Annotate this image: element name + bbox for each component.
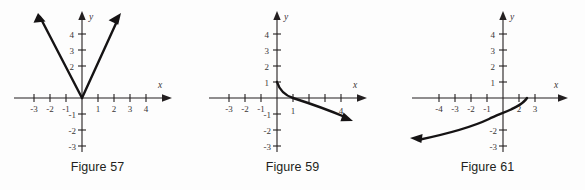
figure-57-ytick-labels: 4 3 2 -1 -2 -3 bbox=[69, 30, 77, 152]
xtick-label: 1 bbox=[291, 106, 296, 116]
figure-panel: -3 -2 -1 1 2 3 4 4 3 2 -1 -2 -3 x y bbox=[0, 0, 585, 190]
figure-57-y-axis-label: y bbox=[88, 12, 94, 22]
figure-57-plot: -3 -2 -1 1 2 3 4 4 3 2 -1 -2 -3 x y bbox=[0, 0, 195, 160]
figure-57-axes bbox=[14, 11, 172, 152]
xtick-label: 4 bbox=[144, 104, 149, 114]
ytick-label: 1 bbox=[265, 78, 270, 88]
xtick-label: -3 bbox=[451, 104, 459, 114]
ytick-label: 2 bbox=[491, 62, 496, 72]
ytick-label: 4 bbox=[265, 30, 270, 40]
xtick-label: 1 bbox=[96, 104, 101, 114]
ytick-label: -3 bbox=[264, 142, 272, 152]
figure-59-plot: -3 -2 -1 1 4 4 3 2 1 -1 -2 -3 x y bbox=[195, 0, 390, 160]
xtick-label: 3 bbox=[128, 104, 133, 114]
figure-57-curve bbox=[34, 13, 122, 98]
xtick-label: -3 bbox=[30, 104, 38, 114]
ytick-label: 1 bbox=[491, 78, 496, 88]
figure-57-x-axis-label: x bbox=[157, 80, 163, 90]
figure-59-axes bbox=[209, 11, 367, 152]
ytick-label: 2 bbox=[265, 62, 270, 72]
xtick-label: -2 bbox=[241, 104, 249, 114]
xtick-label: -2 bbox=[46, 104, 54, 114]
ytick-label: 4 bbox=[491, 30, 496, 40]
figure-61-x-axis-label: x bbox=[553, 80, 559, 90]
ytick-label: 4 bbox=[70, 30, 75, 40]
xtick-label: -1 bbox=[483, 104, 491, 114]
xtick-label: -4 bbox=[435, 104, 443, 114]
figure-59-caption: Figure 59 bbox=[195, 160, 390, 174]
ytick-label: -2 bbox=[264, 126, 272, 136]
figure-61-xtick-labels: -4 -3 -2 -1 2 3 bbox=[435, 104, 538, 114]
ytick-label: -3 bbox=[490, 142, 498, 152]
figure-61-y-axis-label: y bbox=[509, 12, 515, 22]
figure-61-caption: Figure 61 bbox=[390, 160, 585, 174]
ytick-label: 3 bbox=[491, 46, 496, 56]
ytick-label: -3 bbox=[69, 142, 77, 152]
ytick-label: -1 bbox=[69, 110, 77, 120]
xtick-label: -2 bbox=[467, 104, 475, 114]
xtick-label: 2 bbox=[112, 104, 117, 114]
ytick-label: 2 bbox=[70, 62, 75, 72]
figure-block-59: -3 -2 -1 1 4 4 3 2 1 -1 -2 -3 x y bbox=[195, 0, 390, 190]
figure-61-ytick-labels: 4 3 2 1 -2 -3 bbox=[490, 30, 498, 152]
ytick-label: 3 bbox=[70, 46, 75, 56]
figure-59-y-axis-label: y bbox=[283, 12, 289, 22]
ytick-label: -2 bbox=[490, 126, 498, 136]
ytick-label: -2 bbox=[69, 126, 77, 136]
figure-59-ytick-labels: 4 3 2 1 -1 -2 -3 bbox=[264, 30, 272, 152]
figure-block-61: -4 -3 -2 -1 2 3 4 3 2 1 -2 -3 x y bbox=[390, 0, 585, 190]
figure-61-plot: -4 -3 -2 -1 2 3 4 3 2 1 -2 -3 x y bbox=[390, 0, 585, 160]
figure-59-x-axis-label: x bbox=[352, 80, 358, 90]
figure-57-xtick-labels: -3 -2 -1 1 2 3 4 bbox=[30, 104, 149, 114]
xtick-label: 3 bbox=[533, 104, 538, 114]
ytick-label: -1 bbox=[264, 110, 272, 120]
figure-59-curve bbox=[277, 82, 353, 121]
figure-block-57: -3 -2 -1 1 2 3 4 4 3 2 -1 -2 -3 x y bbox=[0, 0, 195, 190]
xtick-label: -3 bbox=[225, 104, 233, 114]
figure-57-caption: Figure 57 bbox=[0, 160, 195, 174]
ytick-label: 3 bbox=[265, 46, 270, 56]
